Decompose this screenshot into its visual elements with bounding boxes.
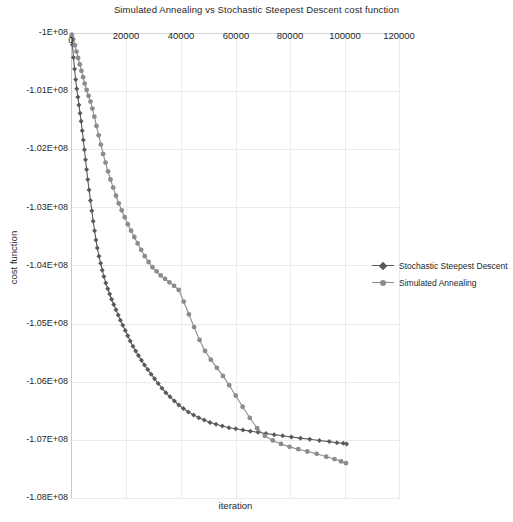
y-tick-label: -1.08E+08 [2, 492, 68, 502]
gridline-horizontal [71, 207, 400, 208]
legend-item-stochastic-steepest-descent: Stochastic Steepest Descent [372, 259, 512, 272]
x-tick-label: 0 [68, 34, 73, 45]
legend-item-simulated-annealing: Simulated Annealing [372, 276, 512, 289]
x-tick-label: 20000 [113, 30, 139, 41]
y-tick-label: -1.03E+08 [2, 202, 68, 212]
gridline-horizontal [71, 149, 400, 150]
gridline-horizontal [71, 324, 400, 325]
gridline-horizontal [71, 265, 400, 266]
gridline-horizontal [71, 440, 400, 441]
x-axis-tick-labels: 0 20000 40000 60000 80000 100000 120000 [0, 0, 513, 50]
y-tick-label: -1.07E+08 [2, 434, 68, 444]
legend-key-diamond-icon [372, 261, 394, 270]
x-tick-label: 120000 [383, 30, 415, 41]
plot-area [71, 33, 400, 498]
y-tick-label: -1.06E+08 [2, 376, 68, 386]
legend-label: Simulated Annealing [399, 278, 477, 288]
x-tick-label: 40000 [168, 30, 194, 41]
y-tick-label: -1.05E+08 [2, 318, 68, 328]
gridline-horizontal [71, 382, 400, 383]
x-tick-label: 60000 [223, 30, 249, 41]
y-axis-title: cost function [8, 213, 19, 303]
legend-label: Stochastic Steepest Descent [399, 261, 508, 271]
y-axis-line [71, 33, 72, 498]
chart-container: Simulated Annealing vs Stochastic Steepe… [0, 0, 513, 522]
x-tick-label: 80000 [277, 30, 303, 41]
gridline-horizontal [71, 498, 400, 499]
y-tick-label: -1.01E+08 [2, 85, 68, 95]
x-axis-title: iteration [71, 500, 400, 511]
legend-key-circle-icon [372, 278, 394, 287]
legend: Stochastic Steepest Descent Simulated An… [372, 259, 512, 293]
y-tick-label: -1.02E+08 [2, 143, 68, 153]
x-tick-label: 100000 [329, 30, 361, 41]
gridline-horizontal [71, 91, 400, 92]
